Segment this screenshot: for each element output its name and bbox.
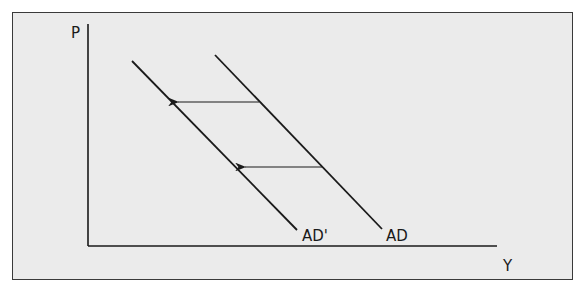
x-axis-label: Y: [503, 259, 512, 274]
ad-prime-curve: [132, 61, 297, 230]
y-axis-label: P: [71, 26, 80, 41]
ad-label: AD: [386, 229, 408, 244]
ad-curve: [215, 55, 382, 229]
diagram-canvas: [0, 0, 585, 292]
ad-prime-label: AD': [302, 229, 328, 244]
